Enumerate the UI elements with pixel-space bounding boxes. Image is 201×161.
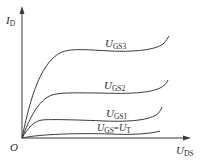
curve-label-ugs1: UGS1 — [106, 108, 127, 121]
x-axis-arrow-icon — [183, 136, 191, 141]
curve-ugs3 — [22, 36, 169, 138]
curve-label-ugs2: UGS2 — [104, 80, 125, 93]
origin-label: O — [10, 142, 18, 153]
curve-label-ugs-ut: UGS=UT — [97, 123, 131, 135]
y-axis-arrow-icon — [20, 6, 25, 14]
curve-ugs-ut — [22, 131, 160, 138]
curve-label-ugs3: UGS3 — [105, 38, 126, 51]
y-axis-label: ID — [6, 15, 15, 28]
output-characteristics-diagram — [0, 0, 201, 161]
x-axis-label: UDS — [176, 145, 194, 158]
curve-ugs2 — [22, 80, 168, 138]
